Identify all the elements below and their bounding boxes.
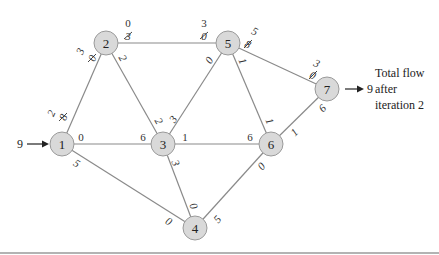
residual-6-7-to: 6 [316,101,329,114]
node-4-label: 4 [192,221,199,236]
node-5: 5 [216,31,240,55]
edge-2-3 [106,43,163,144]
node-3: 3 [151,132,175,156]
residual-1-2-to: 3 [73,46,87,57]
node-2-label: 2 [103,36,110,51]
annotation-line2: after [375,82,397,96]
annotation-line3: iteration 2 [375,98,424,112]
residual-2-5-to: 3 [201,17,207,29]
residual-2-3-from: 2 [116,53,129,64]
node-7-label: 7 [324,82,331,97]
network-flow-diagram: 9 9 Total flow after iteration 2 2 8 3 0… [0,0,439,255]
residual-3-4-from: 3 [169,157,183,168]
residual-1-4-from: 5 [71,156,82,169]
residual-5-6-to: 1 [263,116,276,126]
residual-3-5-to: 0 [202,54,215,66]
node-6: 6 [259,132,283,156]
node-1: 1 [50,132,74,156]
residual-3-5-from: 3 [166,113,180,125]
residual-5-7-from: 5 [250,24,261,37]
residual-1-4-to: 0 [163,214,174,227]
residual-3-6-to: 6 [247,131,253,143]
residual-5-6-from: 1 [236,56,249,66]
residual-3-4-to: 0 [187,201,200,211]
edge-5-6 [228,43,271,144]
edge-4-6 [195,144,271,228]
edge-1-4 [62,144,195,228]
node-2: 2 [94,31,118,55]
edge-3-4 [163,144,195,228]
node-3-label: 3 [160,137,167,152]
residual-3-6-from: 1 [182,131,188,143]
source-arrowhead-icon [42,141,49,148]
node-4: 4 [183,216,207,240]
residual-4-6-from: 5 [211,213,224,225]
residual-2-5-to-old: 0 [201,30,207,42]
residual-labels: 2 8 3 0 0 6 5 0 2 2 0 3 3 0 3 0 3 0 1 6 … [44,17,328,228]
sink-outflow-value: 9 [367,82,373,96]
residual-6-7-from: 1 [288,126,300,138]
annotation-line1: Total flow [375,66,425,80]
residual-1-3-from: 0 [78,131,84,143]
sink-arrowhead-icon [357,86,364,93]
residual-4-6-to: 0 [255,160,268,172]
edge-3-5 [163,43,228,144]
edges [62,43,327,228]
sink-outflow: 9 Total flow after iteration 2 [345,66,425,112]
residual-1-3-to: 6 [140,131,146,143]
node-6-label: 6 [268,137,275,152]
source-inflow: 9 [17,137,49,151]
node-5-label: 5 [225,36,232,51]
node-1-label: 1 [59,137,66,152]
edge-1-2 [62,43,106,144]
source-inflow-value: 9 [17,137,23,151]
node-7: 7 [315,77,339,101]
residual-2-3-to: 2 [152,116,165,127]
residual-2-5-from: 0 [125,17,131,29]
